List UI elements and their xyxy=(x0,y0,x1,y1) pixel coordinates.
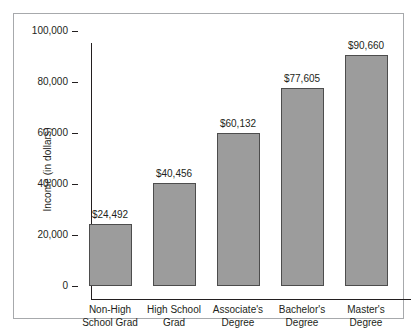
bar-value-label: $24,492 xyxy=(70,210,150,220)
y-axis-tick-label: 80,000 xyxy=(6,77,68,87)
x-axis-category-line: Degree xyxy=(330,317,402,330)
y-axis-tick-label: 60,000 xyxy=(6,128,68,138)
y-axis-tick-label: 100,000 xyxy=(6,26,68,36)
bar-value-label: $77,605 xyxy=(262,74,342,84)
x-axis-category-line: Grad xyxy=(138,317,210,330)
x-axis-category-line: Associate's xyxy=(202,304,274,317)
x-axis-category-line: High School xyxy=(138,304,210,317)
chart-frame: Income (in dollars) 020,00040,00060,0008… xyxy=(13,13,404,319)
x-axis-category-label: Master'sDegree xyxy=(330,304,402,329)
y-axis-tick-mark xyxy=(72,133,78,134)
bar xyxy=(281,88,324,286)
y-axis-tick-mark xyxy=(72,286,78,287)
x-axis-category-line: Degree xyxy=(202,317,274,330)
x-axis-category-line: Degree xyxy=(266,317,338,330)
x-axis-category-label: Associate'sDegree xyxy=(202,304,274,329)
bar-value-label: $60,132 xyxy=(198,119,278,129)
bar xyxy=(217,133,260,286)
bar-value-label: $90,660 xyxy=(326,41,406,51)
x-axis-category-label: Bachelor'sDegree xyxy=(266,304,338,329)
y-axis-tick-label: 0 xyxy=(6,281,68,291)
y-axis-tick-mark xyxy=(72,31,78,32)
y-axis-tick-mark xyxy=(72,184,78,185)
x-axis-category-label: High SchoolGrad xyxy=(138,304,210,329)
y-axis-tick-mark xyxy=(72,235,78,236)
bar xyxy=(345,55,388,286)
x-axis-category-line: Bachelor's xyxy=(266,304,338,317)
x-axis-category-label: Non-HighSchool Grad xyxy=(74,304,146,329)
bar xyxy=(153,183,196,286)
x-axis-category-line: School Grad xyxy=(74,317,146,330)
bar xyxy=(89,224,132,286)
y-axis-title: Income (in dollars) xyxy=(42,90,53,250)
x-axis-category-line: Non-High xyxy=(74,304,146,317)
x-axis-line xyxy=(91,299,411,300)
bar-value-label: $40,456 xyxy=(134,169,214,179)
y-axis-tick-mark xyxy=(72,82,78,83)
y-axis-tick-label: 40,000 xyxy=(6,179,68,189)
y-axis-tick-label: 20,000 xyxy=(6,230,68,240)
bar-chart-figure: Income (in dollars) 020,00040,00060,0008… xyxy=(0,0,418,334)
x-axis-category-line: Master's xyxy=(330,304,402,317)
